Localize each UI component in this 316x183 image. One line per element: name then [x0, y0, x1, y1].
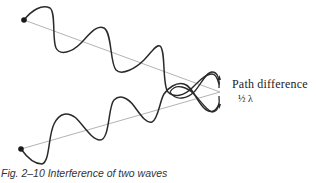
- path-difference-label: Path difference: [232, 77, 308, 92]
- half-wavelength-label: ½ λ: [238, 93, 253, 104]
- upper-wave: [24, 7, 219, 96]
- lower-path-line: [21, 92, 220, 149]
- figure-caption: Fig. 2–10 Interference of two waves: [1, 167, 167, 179]
- lower-source-dot: [18, 146, 24, 152]
- upper-source-dot: [21, 17, 27, 23]
